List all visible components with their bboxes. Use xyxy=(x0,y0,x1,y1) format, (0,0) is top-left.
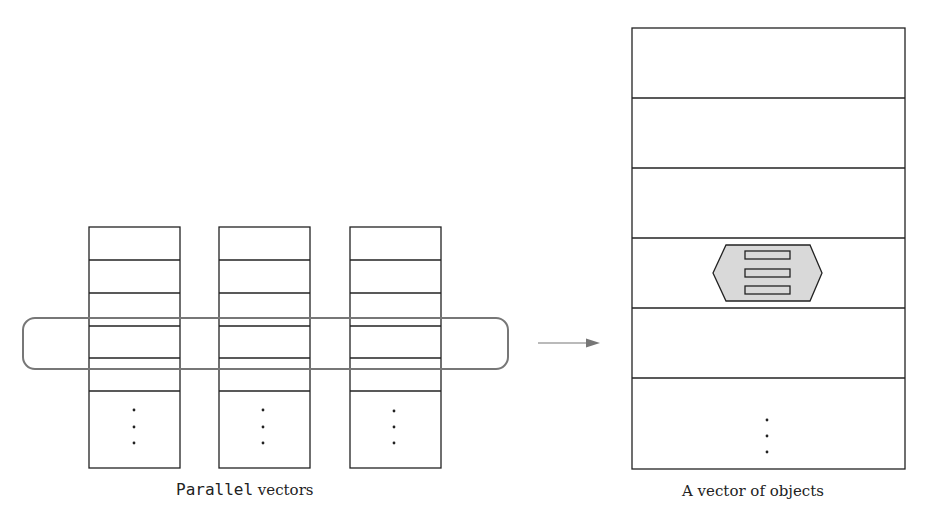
caption-text: vectors xyxy=(253,481,313,499)
vector-column-3 xyxy=(350,227,441,468)
parallel-vectors xyxy=(89,227,441,468)
vector-of-objects-caption: A vector of objects xyxy=(682,482,824,500)
ellipsis-dots-left xyxy=(133,409,396,445)
parallel-vectors-caption: Parallel vectors xyxy=(176,480,314,499)
ellipsis-dots-right xyxy=(766,419,769,454)
caption-code: Parallel xyxy=(176,480,253,499)
vector-column-2 xyxy=(219,227,310,468)
hexagon-object-icon xyxy=(713,245,822,301)
vector-column-1 xyxy=(89,227,180,468)
diagram-canvas xyxy=(0,0,926,518)
arrow-right-icon xyxy=(538,339,600,348)
